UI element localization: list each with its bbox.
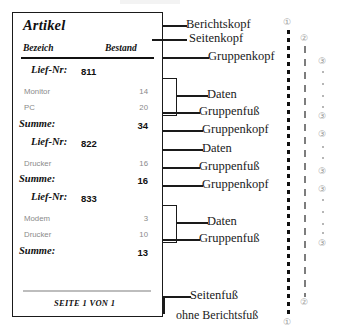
diagram-canvas: Artikel Bezeich Bestand Lief-Nr: 811 Mon… — [0, 0, 337, 334]
marker-level-3-c: ③ — [318, 130, 326, 139]
annotation-ohne-berichtsfuss: ohne Berichtsfuß — [176, 308, 258, 323]
column-header-name: Bezeich — [23, 43, 54, 53]
data-row-value: 20 — [126, 103, 148, 112]
scan-artifact — [120, 0, 180, 4]
data-row-name: Modem — [24, 214, 50, 223]
leader-line-seitenfuss — [163, 296, 191, 298]
group-footer-value-2: 16 — [126, 175, 148, 186]
scope-line-level-2 — [304, 46, 306, 297]
marker-level-1-top: ① — [283, 18, 291, 27]
group-footer-value-1: 34 — [126, 120, 148, 131]
data-row-value: 14 — [126, 87, 148, 96]
annotation-seitenkopf: Seitenkopf — [189, 31, 243, 46]
data-row-name: Drucker — [24, 159, 51, 168]
marker-level-3-f: ③ — [318, 239, 326, 248]
page-footer-rule — [23, 290, 151, 292]
group-footer-label-3: Summe: — [19, 245, 55, 256]
daten-bracket-stem-1 — [176, 95, 208, 97]
marker-level-3-b: ③ — [318, 112, 326, 121]
marker-level-3-e: ③ — [318, 185, 326, 194]
group-footer-label-2: Summe: — [19, 173, 55, 184]
marker-level-3-a: ③ — [318, 57, 326, 66]
leader-line-daten-2 — [163, 149, 203, 151]
leader-line-gruppenkopf-2 — [163, 130, 203, 132]
group-header-label-3: Lief-Nr: — [31, 191, 67, 202]
daten-bracket-1 — [163, 78, 177, 116]
group-header-label-1: Lief-Nr: — [31, 64, 67, 75]
report-title: Artikel — [23, 17, 66, 34]
annotation-gruppenfuss-2: Gruppenfuß — [199, 159, 259, 174]
group-header-label-2: Lief-Nr: — [31, 136, 67, 147]
annotation-daten-2: Daten — [202, 141, 232, 156]
marker-level-2-bottom: ② — [300, 298, 308, 307]
daten-bracket-stem-3 — [176, 222, 208, 224]
data-row-value: 16 — [126, 159, 148, 168]
group-header-value-3: 833 — [81, 193, 97, 204]
page-footer-text: SEITE 1 VON 1 — [54, 298, 115, 308]
marker-level-2-top: ② — [300, 34, 308, 43]
group-header-value-2: 822 — [81, 138, 97, 149]
data-row-value: 10 — [126, 230, 148, 239]
leader-tick-footer — [163, 296, 165, 314]
column-header-value: Bestand — [105, 43, 137, 53]
annotation-gruppenkopf-2: Gruppenkopf — [202, 122, 269, 137]
data-row-name: Drucker — [24, 230, 51, 239]
report-preview-box: Artikel Bezeich Bestand Lief-Nr: 811 Mon… — [12, 12, 163, 317]
data-row-value: 3 — [126, 214, 148, 223]
header-rule — [21, 57, 154, 59]
annotation-gruppenkopf-1: Gruppenkopf — [208, 49, 275, 64]
marker-level-1-bottom: ① — [283, 318, 291, 327]
annotation-gruppenfuss-3: Gruppenfuß — [199, 231, 259, 246]
data-row-name: PC — [24, 103, 35, 112]
group-header-value-1: 811 — [81, 66, 96, 77]
leader-line-gruppenkopf-3 — [163, 185, 203, 187]
leader-line-seitenkopf — [152, 39, 187, 41]
annotation-daten-1: Daten — [207, 87, 237, 102]
marker-level-3-d: ③ — [318, 167, 326, 176]
annotation-daten-3: Daten — [207, 214, 237, 229]
annotation-gruppenfuss-1: Gruppenfuß — [199, 104, 259, 119]
group-footer-value-3: 13 — [126, 247, 148, 258]
group-footer-label-1: Summe: — [19, 118, 55, 129]
leader-line-berichtskopf — [163, 25, 187, 27]
daten-bracket-3 — [163, 205, 177, 243]
annotation-berichtskopf: Berichtskopf — [186, 17, 251, 32]
scope-line-level-1 — [287, 30, 290, 317]
annotation-gruppenkopf-3: Gruppenkopf — [202, 177, 269, 192]
leader-line-gruppenfuss-2 — [163, 167, 200, 169]
annotation-seitenfuss: Seitenfuß — [190, 288, 238, 303]
leader-line-gruppenkopf-1 — [163, 57, 209, 59]
data-row-name: Monitor — [24, 87, 50, 96]
